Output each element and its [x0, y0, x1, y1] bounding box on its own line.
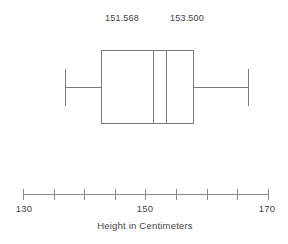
- median-line: [153, 50, 154, 124]
- x-axis-tick-130: [23, 189, 24, 200]
- x-axis-tick-165: [237, 189, 238, 200]
- right-whisker-cap: [248, 69, 249, 106]
- x-axis-tick-170: [268, 189, 269, 200]
- left-whisker-cap: [65, 69, 66, 106]
- x-axis-tick-label-150: 150: [137, 203, 153, 214]
- left-whisker-line: [65, 87, 102, 88]
- x-axis-tick-155: [176, 189, 177, 200]
- x-axis-tick-label-130: 130: [16, 203, 32, 214]
- x-axis-tick-140: [84, 189, 85, 200]
- median-value-label: 151.568: [105, 13, 139, 23]
- marker-line: [166, 50, 167, 124]
- marker-value-label: 153.500: [170, 13, 204, 23]
- box-plot-figure: 151.568 153.500 130 150 170 Height in Ce…: [0, 0, 288, 244]
- right-whisker-line: [193, 87, 249, 88]
- x-axis-tick-160: [207, 189, 208, 200]
- x-axis-tick-label-170: 170: [259, 203, 275, 214]
- x-axis-title: Height in Centimeters: [97, 220, 193, 231]
- box-iqr-rect: [101, 50, 194, 124]
- x-axis-tick-150: [145, 189, 146, 200]
- x-axis-tick-145: [115, 189, 116, 200]
- x-axis-tick-135: [54, 189, 55, 200]
